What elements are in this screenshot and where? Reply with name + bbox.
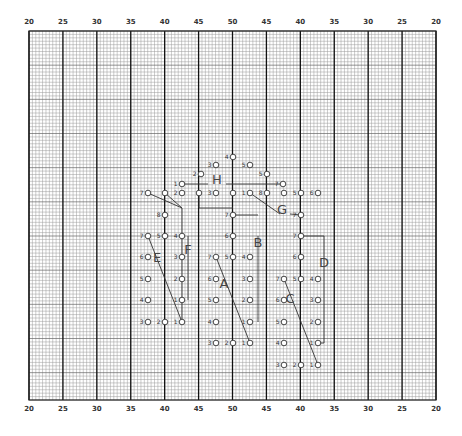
top-scale-label: 25 (58, 18, 68, 26)
pin-icon (315, 190, 321, 196)
pin-icon (298, 212, 304, 218)
pin-icon (315, 340, 321, 346)
top-scale-label: 35 (329, 18, 339, 26)
pin-icon (230, 190, 236, 196)
pin-number: 1 (310, 361, 314, 368)
pin-icon (213, 319, 219, 325)
pin-number: 7 (276, 275, 280, 282)
component-label-h: H (212, 172, 222, 187)
component-label-c: C (285, 291, 294, 306)
pin-number: 7 (275, 180, 279, 187)
bottom-scale-label: 40 (160, 405, 170, 413)
pin-icon (247, 276, 253, 282)
component-label-e: E (153, 250, 161, 265)
pin-icon (247, 319, 253, 325)
pin-icon (213, 297, 219, 303)
pin-number: 1 (174, 180, 178, 187)
component-label-a: A (220, 276, 229, 291)
pin-icon (230, 212, 236, 218)
pin-icon (281, 276, 287, 282)
pin-number: 1 (174, 296, 178, 303)
pin-icon (145, 254, 151, 260)
top-scale-label: 40 (160, 18, 170, 26)
pin-number: 4 (174, 232, 178, 239)
pin-number: 3 (140, 318, 144, 325)
pin-icon (280, 181, 286, 187)
component-label-g: G (277, 202, 287, 217)
pin-number: 7 (208, 253, 212, 260)
wire (250, 193, 280, 214)
pin-number: 7 (225, 211, 229, 218)
pin-number: 4 (242, 253, 246, 260)
top-scale: 20253035404550454035302520 (24, 18, 441, 26)
pin-icon (230, 254, 236, 260)
pin-icon (247, 254, 253, 260)
pin-number: 6 (140, 253, 144, 260)
top-scale-label: 20 (24, 18, 34, 26)
pin-number: 5 (276, 318, 280, 325)
pin-number: 5 (293, 189, 297, 196)
pin-number: 1 (242, 318, 246, 325)
component-label-f: F (184, 242, 191, 257)
pin-icon (179, 181, 185, 187)
pin-number: 4 (208, 318, 212, 325)
pin-icon (281, 362, 287, 368)
pin-icon (264, 171, 270, 177)
bottom-scale-label: 30 (92, 405, 102, 413)
pin-icon (315, 297, 321, 303)
pin-number: 5 (293, 275, 297, 282)
component-label-b: B (254, 235, 263, 250)
pin-number: 4 (140, 296, 144, 303)
pin-number: 3 (208, 339, 212, 346)
pin-number: 4 (225, 153, 229, 160)
pin-icon (196, 190, 202, 196)
pin-number: 5 (242, 161, 246, 168)
pin-number: 6 (310, 189, 314, 196)
pin-icon (298, 233, 304, 239)
pin-icon (230, 233, 236, 239)
pin-icon (230, 340, 236, 346)
pin-icon (145, 319, 151, 325)
pin-number: 5 (259, 170, 263, 177)
pin-icon (145, 276, 151, 282)
bottom-scale-label: 40 (295, 405, 305, 413)
pin-number: 6 (225, 232, 229, 239)
bottom-scale-label: 30 (363, 405, 373, 413)
pin-icon (179, 233, 185, 239)
bottom-scale-label: 45 (194, 405, 204, 413)
pin-icon (247, 340, 253, 346)
pin-number: 7 (140, 232, 144, 239)
pin-icon (247, 162, 253, 168)
pin-number: 1 (242, 189, 246, 196)
pin-icon (298, 254, 304, 260)
pin-number: 2 (242, 296, 246, 303)
pin-icon (264, 190, 270, 196)
pin-icon (162, 212, 168, 218)
pin-icon (298, 276, 304, 282)
pin-icon (145, 233, 151, 239)
pin-number: 3 (174, 253, 178, 260)
pin-number: 6 (293, 253, 297, 260)
pin-number: 2 (174, 189, 178, 196)
pin-number: 3 (310, 296, 314, 303)
top-scale-label: 40 (295, 18, 305, 26)
pin-icon (162, 190, 168, 196)
pin-icon (162, 319, 168, 325)
pin-number: 7 (140, 189, 144, 196)
pin-number: 2 (193, 170, 197, 177)
pin-number: 3 (242, 275, 246, 282)
pin-number: 6 (208, 275, 212, 282)
pin-number: 5 (225, 253, 229, 260)
pin-number: 3 (208, 189, 212, 196)
pin-icon (230, 154, 236, 160)
pin-number: 8 (259, 189, 263, 196)
pin-icon (315, 319, 321, 325)
pin-icon (179, 190, 185, 196)
top-scale-label: 45 (262, 18, 272, 26)
top-scale-label: 20 (431, 18, 441, 26)
bottom-scale-label: 20 (431, 405, 441, 413)
pin-number: 1 (174, 318, 178, 325)
pin-number: 1 (310, 339, 314, 346)
pin-icon (281, 319, 287, 325)
pin-number: 5 (140, 275, 144, 282)
